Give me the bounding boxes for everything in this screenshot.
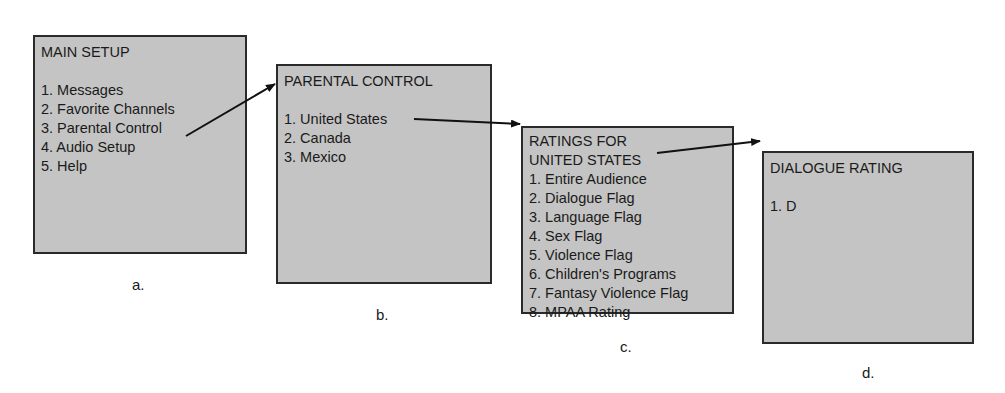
caption-c: c. <box>620 338 632 355</box>
caption-d: d. <box>862 364 875 381</box>
menu-item-united-states: 1. United States <box>284 110 484 129</box>
menu-item-dialogue-flag: 2. Dialogue Flag <box>529 189 726 208</box>
menu-title: MAIN SETUP <box>41 43 239 62</box>
menu-box-parental-control: PARENTAL CONTROL 1. United States 2. Can… <box>276 64 492 284</box>
caption-a: a. <box>132 276 145 293</box>
menu-title: DIALOGUE RATING <box>770 159 966 178</box>
menu-item-messages: 1. Messages <box>41 81 239 100</box>
menu-item-parental-control: 3. Parental Control <box>41 119 239 138</box>
menu-title: PARENTAL CONTROL <box>284 72 484 91</box>
menu-item-favorite-channels: 2. Favorite Channels <box>41 100 239 119</box>
menu-box-ratings-united-states: RATINGS FOR UNITED STATES 1. Entire Audi… <box>521 126 734 314</box>
menu-item-entire-audience: 1. Entire Audience <box>529 170 726 189</box>
menu-item-help: 5. Help <box>41 157 239 176</box>
menu-item-audio-setup: 4. Audio Setup <box>41 138 239 157</box>
menu-box-dialogue-rating: DIALOGUE RATING 1. D <box>762 151 974 344</box>
menu-item-fantasy-violence-flag: 7. Fantasy Violence Flag <box>529 284 726 303</box>
caption-b: b. <box>376 306 389 323</box>
menu-box-main-setup: MAIN SETUP 1. Messages 2. Favorite Chann… <box>33 35 247 254</box>
menu-list: 1. Messages 2. Favorite Channels 3. Pare… <box>41 81 239 176</box>
menu-item-mexico: 3. Mexico <box>284 148 484 167</box>
menu-title: RATINGS FOR UNITED STATES <box>529 132 726 170</box>
menu-item-sex-flag: 4. Sex Flag <box>529 227 726 246</box>
menu-item-canada: 2. Canada <box>284 129 484 148</box>
menu-item-mpaa-rating: 8. MPAA Rating <box>529 303 726 322</box>
menu-item-language-flag: 3. Language Flag <box>529 208 726 227</box>
menu-list: 1. United States 2. Canada 3. Mexico <box>284 110 484 167</box>
menu-item-d: 1. D <box>770 197 966 216</box>
menu-list: 1. Entire Audience 2. Dialogue Flag 3. L… <box>529 170 726 322</box>
menu-item-childrens-programs: 6. Children's Programs <box>529 265 726 284</box>
menu-item-violence-flag: 5. Violence Flag <box>529 246 726 265</box>
menu-list: 1. D <box>770 197 966 216</box>
